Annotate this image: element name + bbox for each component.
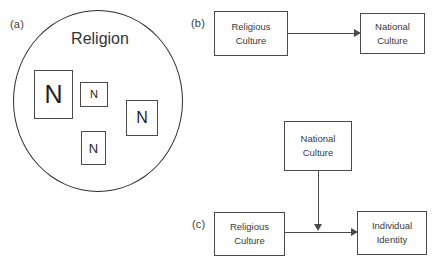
arrow-line-national-to-identity-c (318, 171, 319, 227)
box-line-2: Culture (303, 146, 334, 160)
figure-canvas: (a) Religion N N N N (b) Religious Cultu… (0, 0, 438, 262)
box-line-1: National (301, 132, 336, 146)
arrowhead-down-icon-c (314, 224, 322, 231)
box-line-2: Culture (234, 234, 265, 248)
box-line-2: Culture (377, 34, 408, 48)
arrow-line-religious-to-identity-c (285, 232, 355, 233)
panel-label-a: (a) (10, 19, 24, 30)
box-religious-culture-b: Religious Culture (214, 11, 288, 56)
box-line-1: Religious (230, 220, 269, 234)
box-line-2: Identity (377, 233, 408, 247)
box-line-1: Individual (372, 219, 412, 233)
box-line-2: Culture (236, 34, 267, 48)
nation-box-xsmall: N (80, 82, 108, 107)
arrow-line-religious-to-national-b (288, 33, 356, 34)
box-national-culture-b: National Culture (360, 13, 425, 54)
box-line-1: Religious (231, 20, 270, 34)
box-national-culture-c: National Culture (284, 121, 352, 171)
panel-label-c: (c) (192, 219, 205, 230)
nation-box-large: N (34, 70, 73, 119)
box-line-1: National (375, 20, 410, 34)
religion-title: Religion (60, 31, 140, 47)
box-religious-culture-c: Religious Culture (214, 212, 285, 256)
nation-box-medium: N (126, 100, 158, 136)
panel-label-b: (b) (191, 18, 205, 29)
nation-box-small: N (81, 131, 106, 165)
box-individual-identity-c: Individual Identity (357, 211, 427, 255)
